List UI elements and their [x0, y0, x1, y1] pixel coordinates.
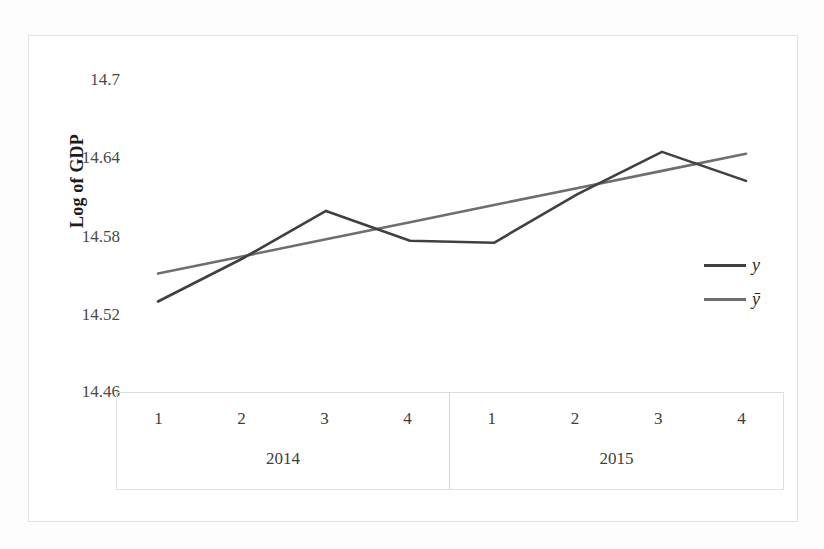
x-tick-2014-q4: 4 [366, 409, 449, 429]
legend-label-ybar: ȳ [752, 290, 760, 308]
x-axis-year-group-2015: 1 2 3 4 2015 [450, 393, 783, 489]
x-axis-year-row-2015: 2015 [450, 445, 783, 489]
legend-item-ybar: ȳ [704, 282, 800, 316]
legend-swatch-y-icon [704, 264, 746, 267]
x-axis-year-row-2014: 2014 [117, 445, 449, 489]
x-axis-year-label-2014: 2014 [266, 449, 300, 469]
y-tick-label-0: 14.7 [34, 71, 120, 89]
x-tick-2015-q3: 3 [617, 409, 700, 429]
legend-label-y: y [752, 256, 760, 274]
x-tick-2014-q2: 2 [200, 409, 283, 429]
x-axis-year-label-2015: 2015 [600, 449, 634, 469]
y-tick-label-3: 14.52 [34, 306, 120, 324]
x-tick-2014-q1: 1 [117, 409, 200, 429]
x-tick-2015-q2: 2 [533, 409, 616, 429]
legend-swatch-ybar-icon [704, 298, 746, 301]
x-axis-table: 1 2 3 4 2014 1 2 3 4 2015 [116, 392, 784, 490]
x-tick-2015-q1: 1 [450, 409, 533, 429]
x-tick-2015-q4: 4 [700, 409, 783, 429]
y-tick-label-4: 14.46 [34, 383, 120, 401]
y-axis-tick-labels: 14.7 14.64 14.58 14.52 14.46 [28, 0, 120, 549]
x-axis-year-group-2014: 1 2 3 4 2014 [117, 393, 450, 489]
y-tick-label-1: 14.64 [34, 149, 120, 167]
chart-figure: Log of GDP 14.7 14.64 14.58 14.52 14.46 … [0, 0, 824, 549]
legend-item-y: y [704, 248, 800, 282]
x-axis-quarter-row-2015: 1 2 3 4 [450, 393, 783, 445]
x-tick-2014-q3: 3 [283, 409, 366, 429]
chart-legend: y ȳ [704, 248, 800, 320]
y-tick-label-2: 14.58 [34, 228, 120, 246]
x-axis-quarter-row-2014: 1 2 3 4 [117, 393, 449, 445]
